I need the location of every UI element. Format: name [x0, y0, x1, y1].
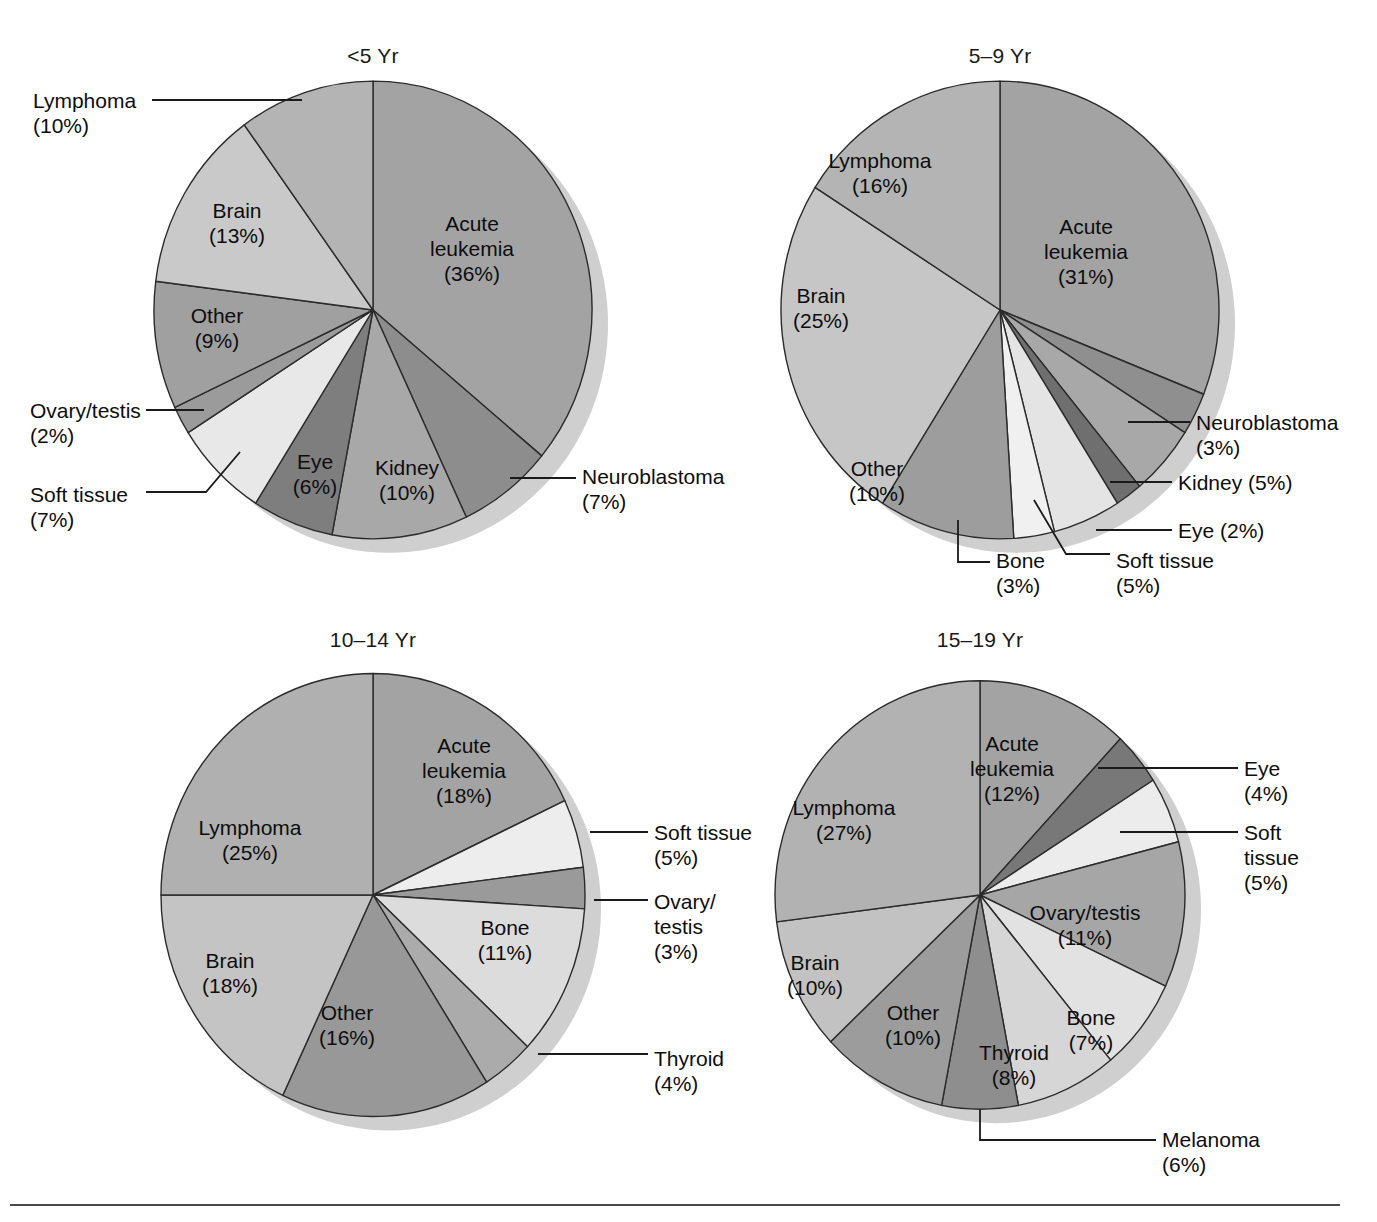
label-eye-under5: Eye(6%) — [270, 449, 360, 499]
label-acute-leukemia-under5: Acuteleukemia(36%) — [402, 211, 542, 286]
pie-chart-2 — [161, 673, 601, 1130]
label-thyroid-15to19: Thyroid(8%) — [954, 1040, 1074, 1090]
label-neuroblastoma-5to9: Neuroblastoma(3%) — [1196, 410, 1338, 460]
label-acute-leukemia-5to9: Acuteleukemia(31%) — [1016, 214, 1156, 289]
label-lymphoma-10to14: Lymphoma(25%) — [170, 815, 330, 865]
label-eye-5to9: Eye (2%) — [1178, 518, 1264, 543]
label-thyroid-10to14: Thyroid(4%) — [654, 1046, 724, 1096]
label-soft-tissue-15to19: Softtissue(5%) — [1244, 820, 1299, 895]
pediatric-cancer-pie-figure: <5 Yr 5–9 Yr 10–14 Yr 15–19 Yr Lymphoma(… — [0, 0, 1377, 1222]
panel-title-10to14: 10–14 Yr — [310, 628, 436, 652]
label-soft-tissue-under5: Soft tissue(7%) — [30, 482, 128, 532]
label-bone-10to14: Bone(11%) — [450, 915, 560, 965]
label-neuroblastoma-under5: Neuroblastoma(7%) — [582, 464, 724, 514]
panel-title-15to19: 15–19 Yr — [917, 628, 1043, 652]
label-other-15to19: Other(10%) — [858, 1000, 968, 1050]
label-brain-10to14: Brain(18%) — [175, 948, 285, 998]
label-bone-5to9: Bone(3%) — [996, 548, 1045, 598]
panel-title-5to9: 5–9 Yr — [937, 44, 1063, 68]
label-soft-tissue-10to14: Soft tissue(5%) — [654, 820, 752, 870]
label-lymphoma-under5: Lymphoma(10%) — [33, 88, 136, 138]
label-lymphoma-15to19: Lymphoma(27%) — [764, 795, 924, 845]
label-brain-under5: Brain(13%) — [182, 198, 292, 248]
label-melanoma-15to19: Melanoma(6%) — [1162, 1127, 1260, 1177]
panel-title-under5: <5 Yr — [310, 44, 436, 68]
label-ovary-testis-under5: Ovary/testis(2%) — [30, 398, 141, 448]
label-ovary-testis-15to19: Ovary/testis(11%) — [1000, 900, 1170, 950]
label-ovary-testis-10to14: Ovary/testis(3%) — [654, 889, 716, 964]
bottom-divider-rule — [10, 1204, 1340, 1206]
label-eye-15to19: Eye(4%) — [1244, 756, 1288, 806]
label-acute-leukemia-10to14: Acuteleukemia(18%) — [394, 733, 534, 808]
pie-charts-canvas — [0, 0, 1377, 1222]
label-other-5to9: Other(10%) — [822, 456, 932, 506]
label-brain-15to19: Brain(10%) — [760, 950, 870, 1000]
label-soft-tissue-5to9: Soft tissue(5%) — [1116, 548, 1214, 598]
label-acute-leukemia-15to19: Acuteleukemia(12%) — [942, 731, 1082, 806]
label-lymphoma-5to9: Lymphoma(16%) — [800, 148, 960, 198]
label-other-10to14: Other(16%) — [292, 1000, 402, 1050]
label-kidney-under5: Kidney(10%) — [352, 455, 462, 505]
label-other-under5: Other(9%) — [162, 303, 272, 353]
label-kidney-5to9: Kidney (5%) — [1178, 470, 1292, 495]
label-brain-5to9: Brain(25%) — [766, 283, 876, 333]
